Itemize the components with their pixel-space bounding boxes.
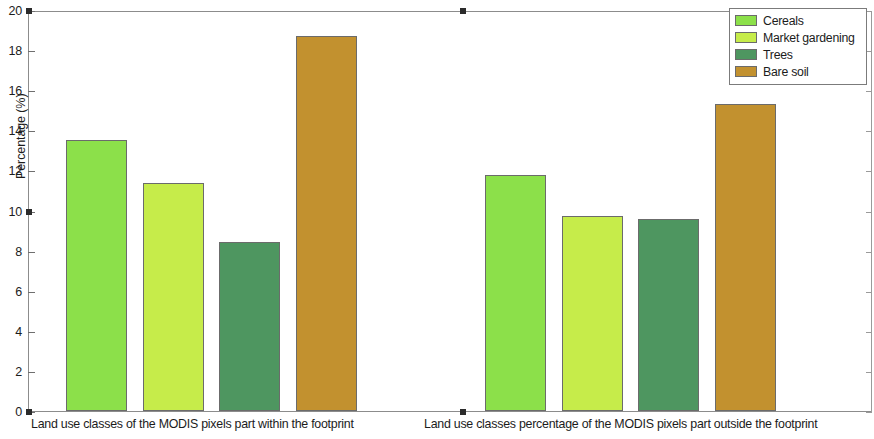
legend-item-trees[interactable]: Trees (735, 46, 862, 63)
y-tick-mark-right (866, 91, 872, 92)
y-tick-mark (28, 252, 35, 253)
axis-marker-top-center (460, 8, 466, 14)
y-tick-mark-right (866, 332, 872, 333)
y-tick-label: 2 (15, 365, 22, 379)
legend-label: Trees (763, 48, 793, 62)
y-tick-mark (28, 91, 35, 92)
y-tick-mark-right (866, 412, 872, 413)
y-tick-mark-right (866, 212, 872, 213)
legend-swatch-icon (735, 15, 757, 26)
axis-marker-bottom-center (460, 409, 466, 415)
y-axis-title: Percentage (%) (14, 94, 28, 179)
y-tick-mark-right (866, 131, 872, 132)
y-tick-mark-right (866, 372, 872, 373)
axis-marker-mid-left (26, 209, 32, 215)
axis-marker-top-left (26, 8, 32, 14)
legend-swatch-icon (735, 66, 757, 77)
bar-cereals-group-2 (485, 175, 546, 411)
y-tick-mark-right (866, 252, 872, 253)
y-tick-mark (28, 372, 35, 373)
bar-bare-soil-group-1 (296, 36, 357, 411)
axis-marker-bottom-left (26, 409, 32, 415)
y-tick-label: 18 (8, 44, 22, 58)
y-tick-mark (28, 51, 35, 52)
bar-bare-soil-group-2 (715, 104, 776, 411)
legend-swatch-icon (735, 49, 757, 60)
legend-label: Cereals (763, 14, 804, 28)
bar-trees-group-2 (638, 219, 699, 411)
legend-items: CerealsMarket gardeningTreesBare soil (735, 12, 862, 80)
y-tick-mark-right (866, 171, 872, 172)
y-tick-label: 20 (8, 4, 22, 18)
legend-label: Bare soil (763, 65, 809, 79)
bar-trees-group-1 (219, 242, 280, 411)
legend-item-bare-soil[interactable]: Bare soil (735, 63, 862, 80)
legend-swatch-icon (735, 32, 757, 43)
legend-label: Market gardening (763, 31, 855, 45)
y-tick-label: 0 (15, 405, 22, 419)
y-tick-label: 6 (15, 285, 22, 299)
legend-item-cereals[interactable]: Cereals (735, 12, 862, 29)
y-tick-label: 8 (15, 245, 22, 259)
y-tick-mark (28, 332, 35, 333)
y-tick-mark-right (866, 292, 872, 293)
bar-market-gardening-group-2 (562, 216, 623, 411)
legend: CerealsMarket gardeningTreesBare soil (729, 8, 867, 85)
bar-market-gardening-group-1 (143, 183, 204, 411)
axis-line-bottom (28, 411, 872, 412)
y-tick-mark (28, 171, 35, 172)
x-axis-group-label-1: Land use classes of the MODIS pixels par… (31, 417, 354, 431)
y-tick-label: 4 (15, 325, 22, 339)
legend-item-market-gardening[interactable]: Market gardening (735, 29, 862, 46)
y-tick-mark (28, 292, 35, 293)
y-tick-label: 10 (8, 205, 22, 219)
y-tick-mark (28, 131, 35, 132)
bar-cereals-group-1 (66, 140, 127, 411)
x-axis-group-label-2: Land use classes percentage of the MODIS… (424, 417, 817, 431)
bar-chart-figure: 20181614121086420 Percentage (%) Land us… (0, 0, 874, 439)
